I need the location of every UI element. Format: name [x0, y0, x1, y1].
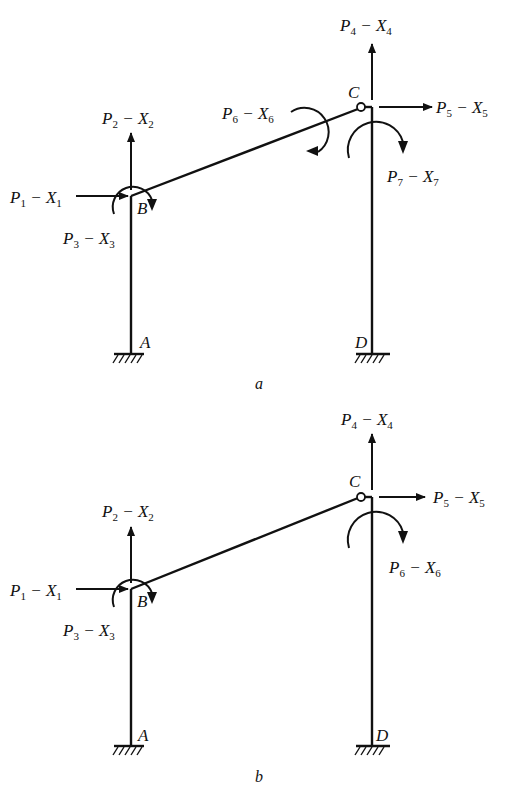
node-label-d: D: [354, 333, 368, 352]
hinge-c-icon: [357, 493, 365, 501]
figure-a: B A C D P1 − X1 P2 − X2 P3 − X3 P4 − X4: [9, 16, 488, 392]
node-label-b: B: [137, 199, 148, 218]
fixed-support-d-icon: [355, 354, 390, 363]
figure-caption-a: a: [255, 375, 263, 392]
figure-b: B A C D P1 − X1 P2 − X2 P3 − X3 P4 − X4 …: [9, 410, 485, 785]
node-label-d: D: [375, 726, 389, 745]
load-label-p1: P1 − X1: [9, 581, 62, 602]
hinge-c-icon: [357, 103, 365, 111]
frame-diagrams: B A C D P1 − X1 P2 − X2 P3 − X3 P4 − X4: [0, 0, 519, 790]
load-label-p5: P5 − X5: [435, 98, 488, 119]
load-label-p5: P5 − X5: [432, 488, 485, 509]
moment-arc-p6-icon: [291, 108, 329, 152]
node-label-a: A: [137, 726, 149, 745]
moment-arrowhead-p6-icon: [306, 146, 318, 156]
load-label-p3: P3 − X3: [62, 229, 115, 250]
beam-bc: [131, 498, 358, 589]
moment-arrowhead-p7-icon: [398, 141, 408, 154]
load-label-p2: P2 − X2: [101, 502, 154, 523]
moment-arrowhead-p3-icon: [147, 592, 157, 604]
moment-arc-p7-icon: [348, 122, 403, 158]
load-label-p4: P4 − X4: [339, 16, 392, 37]
load-label-p6: P6 − X6: [221, 104, 274, 125]
node-label-a: A: [139, 333, 151, 352]
fixed-support-d-icon: [355, 746, 390, 755]
node-label-c: C: [349, 472, 361, 491]
node-label-c: C: [348, 83, 360, 102]
fixed-support-a-icon: [113, 746, 144, 755]
moment-arrowhead-p6-icon: [398, 531, 408, 544]
moment-arrowhead-p3-icon: [147, 199, 157, 211]
figure-caption-b: b: [255, 768, 263, 785]
load-label-p2: P2 − X2: [101, 109, 154, 130]
moment-arc-p6-icon: [348, 512, 403, 548]
load-label-p1: P1 − X1: [9, 188, 62, 209]
load-label-p4: P4 − X4: [340, 410, 393, 431]
load-label-p6: P6 − X6: [388, 558, 441, 579]
node-label-b: B: [137, 592, 148, 611]
fixed-support-a-icon: [113, 354, 144, 363]
load-label-p3: P3 − X3: [62, 621, 115, 642]
load-label-p7: P7 − X7: [386, 167, 439, 188]
